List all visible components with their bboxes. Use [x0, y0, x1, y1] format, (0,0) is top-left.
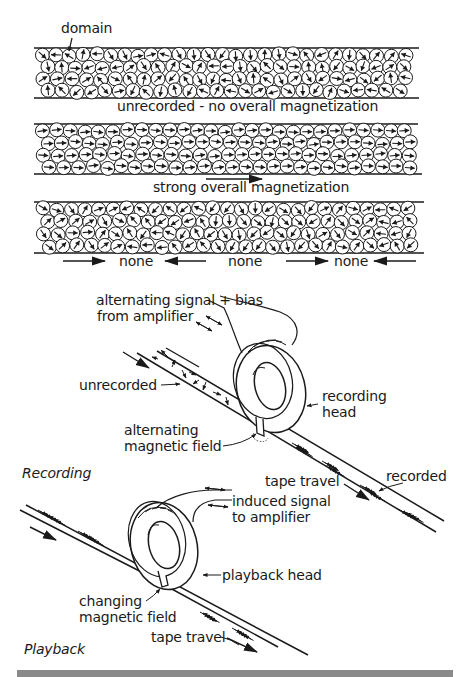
changing-field-label-2: magnetic field [79, 610, 177, 625]
footer-bar [17, 670, 453, 677]
signal-bias-label-1: alternating signal + bias [96, 293, 263, 308]
unrecorded-label: unrecorded [79, 378, 157, 393]
changing-field-label-1: changing [79, 594, 142, 609]
unrecorded-caption: unrecorded - no overall magnetization [117, 99, 378, 114]
playback-section-label: Playback [24, 642, 85, 657]
recording-section-label: Recording [22, 466, 91, 481]
induced-signal-label-2: to amplifier [232, 510, 310, 525]
magnetic-domains-random [35, 47, 412, 100]
induced-signal-label-1: induced signal [232, 494, 331, 509]
induced-signal-arrows [205, 488, 228, 507]
recording-tape-travel-label: tape travel [265, 474, 339, 489]
magnetic-tape-diagram: domain unrecorded - no overall magnetiza… [0, 0, 471, 677]
playback-tape-travel-label: tape travel [151, 630, 225, 645]
tape-unrecorded [34, 47, 419, 100]
recording-head-label-1: recording [322, 389, 387, 404]
alternating-field-label-2: magnetic field [124, 439, 222, 454]
net-none-2: none [228, 254, 262, 269]
magnetic-domains-alternating [36, 201, 418, 255]
tape-cancelled [34, 201, 424, 255]
tape-magnetized [34, 123, 422, 176]
domain-label: domain [61, 21, 112, 36]
net-none-1: none [119, 254, 153, 269]
net-none-3: none [334, 254, 368, 269]
playback-head-label: playback head [222, 568, 322, 583]
recording-head-icon [208, 296, 315, 442]
alternating-field-label-1: alternating [124, 423, 198, 438]
recording-head-label-2: head [322, 405, 356, 420]
signal-bias-label-2: from amplifier [97, 309, 193, 324]
magnetic-domains-aligned [35, 123, 417, 176]
magnetized-caption: strong overall magnetization [153, 180, 349, 195]
signal-wire-arrows [196, 316, 222, 331]
recorded-label: recorded [386, 469, 447, 484]
